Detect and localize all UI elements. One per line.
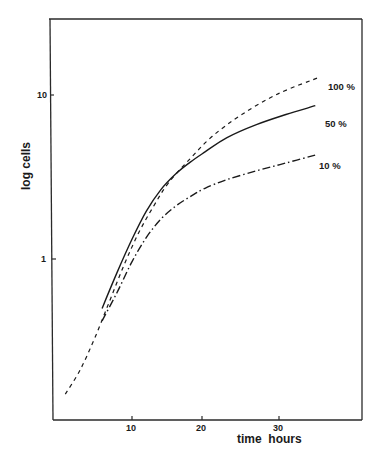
series-50-percent-line — [102, 106, 315, 309]
series-100-percent-line — [65, 77, 319, 394]
series-label-10: 10 % — [319, 160, 341, 171]
x-tick-label-10: 10 — [126, 423, 136, 433]
y-tick-label-10: 10 — [37, 90, 47, 100]
series-label-50: 50 % — [325, 118, 347, 129]
x-axis-label: time hours — [237, 432, 302, 446]
series-group — [65, 77, 319, 394]
growth-chart: 10 1 10 20 30 time hours log cells 100 %… — [0, 0, 380, 459]
x-tick-label-20: 20 — [196, 423, 206, 433]
y-axis-label: log cells — [19, 142, 33, 190]
y-tick-label-1: 1 — [41, 254, 46, 264]
series-10-percent-line — [102, 155, 315, 321]
y-axis — [50, 19, 53, 420]
series-label-100: 100 % — [328, 81, 355, 92]
